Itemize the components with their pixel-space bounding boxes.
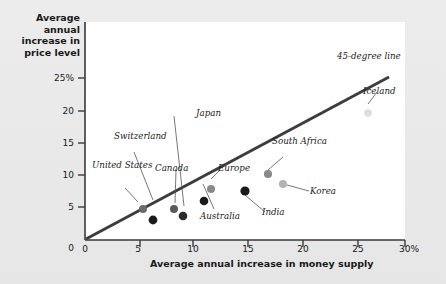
annotation-canada: Canada xyxy=(155,163,188,174)
point-australia xyxy=(200,197,209,206)
point-canada xyxy=(170,205,178,213)
annotation-south-africa: South Africa xyxy=(272,136,320,147)
annotation-europe: Europe xyxy=(218,163,250,174)
point-iceland xyxy=(364,109,372,117)
annotation-india-text: India xyxy=(262,207,285,217)
point-europe xyxy=(207,185,215,193)
annotation-united-states: United States xyxy=(92,160,140,171)
annotation-japan: Japan xyxy=(196,108,221,119)
annotation-korea-text: Korea xyxy=(310,186,336,196)
annotation-australia-text: Australia xyxy=(200,211,240,221)
x-axis-ticks xyxy=(140,240,405,247)
annotation-united-states-text: United States xyxy=(92,160,152,170)
annotation-switzerland: Switzerland xyxy=(114,131,167,142)
annotation-europe-text: Europe xyxy=(218,163,250,173)
annotation-45-degree-line-text: 45-degree line xyxy=(337,51,401,61)
point-south-africa xyxy=(264,170,272,178)
point-switzerland xyxy=(149,216,158,225)
point-united-states xyxy=(139,205,147,213)
annotation-iceland: Iceland xyxy=(363,86,396,97)
annotation-india: India xyxy=(262,207,285,218)
annotation-45-degree-line: 45-degree line xyxy=(337,51,401,62)
y-axis-ticks xyxy=(78,78,85,207)
annotation-canada-text: Canada xyxy=(155,163,188,173)
chart-canvas xyxy=(0,0,446,284)
annotation-japan-text: Japan xyxy=(196,108,221,118)
point-korea xyxy=(279,180,287,188)
annotation-south-africa-text: South Africa xyxy=(272,136,327,146)
point-india xyxy=(240,186,249,195)
chart-figure: Average annual increase in price level A… xyxy=(0,0,446,284)
annotation-iceland-text: Iceland xyxy=(363,86,396,96)
annotation-korea: Korea xyxy=(310,186,336,197)
point-japan xyxy=(179,212,188,221)
annotation-australia: Australia xyxy=(200,211,240,222)
annotation-switzerland-text: Switzerland xyxy=(114,131,167,141)
